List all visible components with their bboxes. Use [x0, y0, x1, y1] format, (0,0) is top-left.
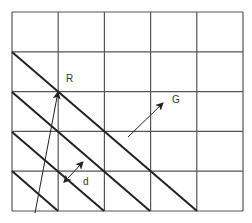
- diagram-canvas: R G d: [0, 0, 252, 223]
- vector-g-label: G: [172, 94, 180, 105]
- lattice-grid: [12, 12, 243, 211]
- reciprocal-lattice-diagram: R G d: [0, 0, 252, 223]
- lattice-plane-line: [12, 171, 58, 211]
- spacing-d-label: d: [83, 176, 89, 187]
- spacing-d-arrow: [68, 162, 83, 178]
- vector-r-arrow: [35, 92, 58, 213]
- vectors: [35, 92, 163, 213]
- vector-r-label: R: [66, 73, 73, 84]
